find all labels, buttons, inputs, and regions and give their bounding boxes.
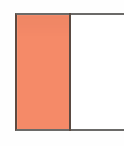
figure-canvas — [0, 0, 124, 146]
rectangle-outline — [15, 13, 124, 131]
left-filled-panel — [17, 15, 69, 129]
right-empty-panel — [70, 15, 124, 129]
panel-divider — [69, 13, 71, 131]
